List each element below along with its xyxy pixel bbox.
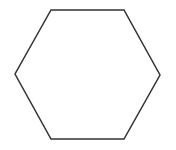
hexagon-diagram (0, 0, 176, 150)
hexagon-shape (15, 10, 160, 139)
diagram-canvas (0, 0, 176, 150)
